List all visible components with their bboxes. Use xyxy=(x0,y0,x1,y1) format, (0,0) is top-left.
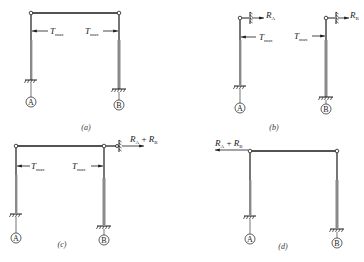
fixed-support-right xyxy=(97,226,112,235)
tmax-label-right: Tmax xyxy=(72,161,86,172)
reaction-label-rb: RB xyxy=(349,10,360,21)
column-left xyxy=(249,180,251,215)
tmax-label-left: Tmax xyxy=(259,32,273,43)
support-label-a: A xyxy=(235,103,245,113)
hinge-node-left xyxy=(248,149,252,153)
support-label-a: A xyxy=(26,97,36,107)
svg-text:A: A xyxy=(13,234,19,243)
support-label-a: A xyxy=(245,234,255,244)
caption-a: (a) xyxy=(81,123,91,132)
fixed-support-left xyxy=(25,80,38,97)
caption-b: (b) xyxy=(269,123,279,132)
panel-d: RA + RB A B (d) xyxy=(214,138,344,251)
column-right xyxy=(103,178,106,225)
reaction-label-ra: RA xyxy=(265,10,276,21)
support-label-a: A xyxy=(11,233,21,243)
caption-c: (c) xyxy=(58,240,67,249)
support-label-b: B xyxy=(332,238,342,248)
column-right xyxy=(336,180,339,228)
fixed-support-left xyxy=(244,216,257,234)
svg-text:B: B xyxy=(323,105,328,114)
svg-text:B: B xyxy=(101,236,106,245)
support-label-b: B xyxy=(114,100,124,110)
hinge-node-right xyxy=(117,11,121,15)
column-left xyxy=(30,40,32,80)
fixed-support-left xyxy=(10,214,23,233)
fixed-support-right xyxy=(330,229,345,238)
tmax-label-right: Tmax xyxy=(85,26,99,37)
panel-c: RA + RB Tmax A Tmax B (c) xyxy=(10,134,159,249)
hinge-node-right xyxy=(324,16,328,20)
hinge-node-left xyxy=(29,11,33,15)
tmax-label-right: Tmax xyxy=(294,31,308,42)
panel-a: A B Tmax Tmax (a) xyxy=(25,11,127,132)
support-label-b: B xyxy=(321,104,331,114)
support-label-b: B xyxy=(99,235,109,245)
panel-b: RA Tmax A RB Tmax xyxy=(234,10,360,132)
fixed-support-left xyxy=(234,86,247,103)
column-left xyxy=(239,40,241,85)
hinge-node-left xyxy=(238,16,242,20)
column-right xyxy=(325,40,328,97)
caption-d: (d) xyxy=(278,242,288,251)
hinge-node-end xyxy=(116,145,119,148)
svg-text:B: B xyxy=(116,101,121,110)
hinge-node-middle xyxy=(102,144,106,148)
tmax-label-left: Tmax xyxy=(31,161,45,172)
load-label-ra-rb: RA + RB xyxy=(214,138,243,149)
fixed-support-right xyxy=(319,97,334,104)
hinge-node-left xyxy=(14,144,18,148)
fixed-support-right xyxy=(112,89,127,100)
frame-diagram: A B Tmax Tmax (a) RA T xyxy=(0,0,364,262)
roller-support xyxy=(119,140,122,152)
svg-text:A: A xyxy=(247,235,253,244)
tmax-label-left: Tmax xyxy=(50,26,64,37)
svg-text:A: A xyxy=(237,104,243,113)
column-right xyxy=(118,40,121,89)
svg-text:A: A xyxy=(28,98,34,107)
column-left xyxy=(15,175,17,213)
reaction-label-ra-rb: RA + RB xyxy=(129,134,158,145)
hinge-node-right xyxy=(335,149,339,153)
svg-text:B: B xyxy=(334,239,339,248)
